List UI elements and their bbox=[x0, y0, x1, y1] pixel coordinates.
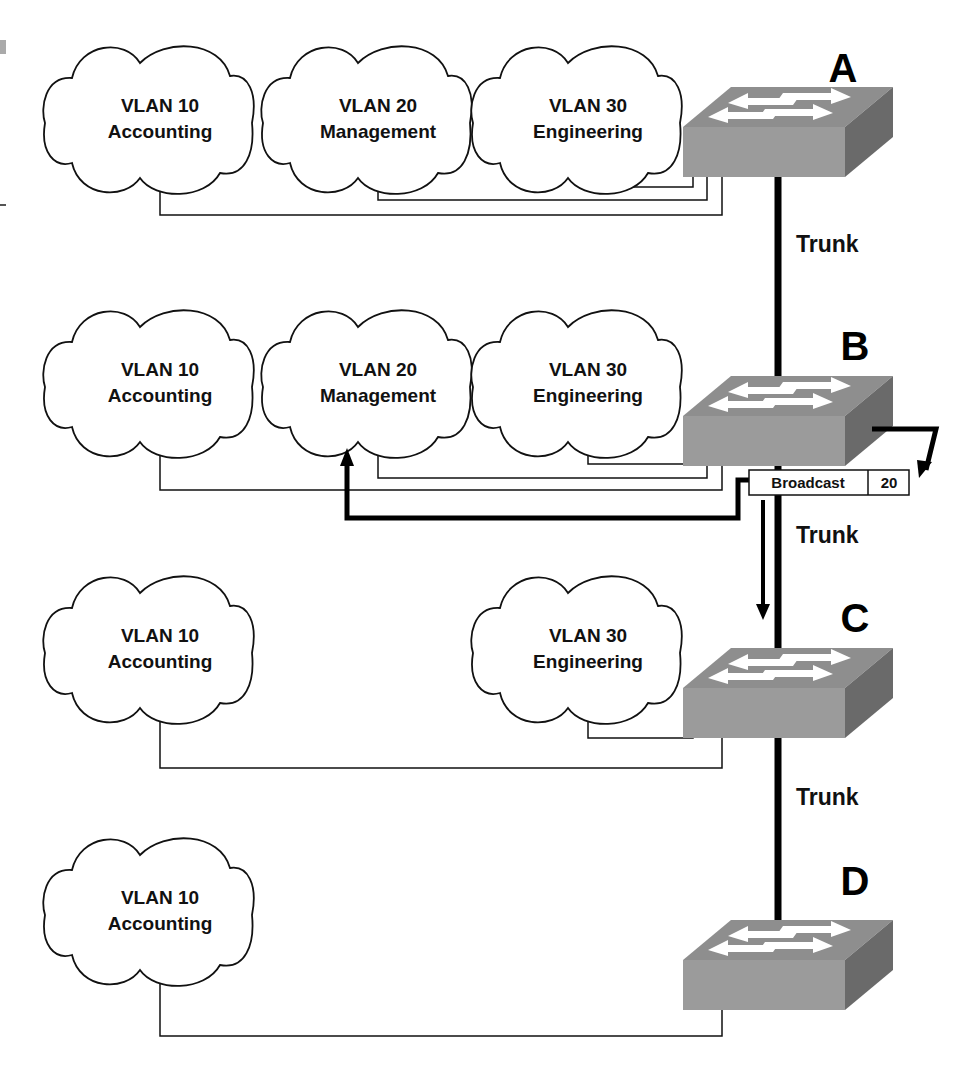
svg-text:VLAN 20: VLAN 20 bbox=[339, 95, 417, 116]
switch-c-label: C bbox=[841, 596, 870, 640]
edge-artifact bbox=[0, 40, 6, 54]
svg-text:VLAN 30: VLAN 30 bbox=[549, 625, 627, 646]
vlan-trunk-diagram: VLAN 10 Accounting VLAN 20 Management VL… bbox=[0, 0, 967, 1074]
svg-text:VLAN 30: VLAN 30 bbox=[549, 359, 627, 380]
switch-b-label: B bbox=[841, 324, 870, 368]
svg-text:Management: Management bbox=[320, 121, 437, 142]
svg-text:Engineering: Engineering bbox=[533, 121, 643, 142]
frame-type: Broadcast bbox=[771, 474, 844, 491]
frame-vlan-tag: 20 bbox=[881, 474, 898, 491]
switch-d-label: D bbox=[841, 859, 870, 903]
svg-text:VLAN 30: VLAN 30 bbox=[549, 95, 627, 116]
svg-text:VLAN 10: VLAN 10 bbox=[121, 95, 199, 116]
trunk-label-cd: Trunk bbox=[796, 784, 859, 810]
svg-text:Engineering: Engineering bbox=[533, 385, 643, 406]
svg-text:Accounting: Accounting bbox=[108, 385, 213, 406]
svg-text:VLAN 10: VLAN 10 bbox=[121, 887, 199, 908]
switch-b[interactable] bbox=[683, 376, 893, 466]
svg-text:Management: Management bbox=[320, 385, 437, 406]
switch-c[interactable] bbox=[683, 648, 893, 738]
cloud-vlan20-b: VLAN 20 Management bbox=[261, 310, 471, 458]
trunk-label-bc: Trunk bbox=[796, 522, 859, 548]
cloud-vlan20-a: VLAN 20 Management bbox=[261, 46, 471, 194]
svg-text:Engineering: Engineering bbox=[533, 651, 643, 672]
broadcast-frame: Broadcast 20 bbox=[749, 470, 909, 495]
cloud-vlan10-b: VLAN 10 Accounting bbox=[43, 310, 253, 458]
cloud-vlan10-c: VLAN 10 Accounting bbox=[43, 576, 253, 724]
svg-text:Accounting: Accounting bbox=[108, 913, 213, 934]
cloud-vlan10-a: VLAN 10 Accounting bbox=[43, 46, 253, 194]
cloud-vlan30-b: VLAN 30 Engineering bbox=[471, 310, 681, 458]
svg-text:VLAN 20: VLAN 20 bbox=[339, 359, 417, 380]
trunk-label-ab: Trunk bbox=[796, 231, 859, 257]
row-b: VLAN 10 Accounting VLAN 20 Management VL… bbox=[43, 310, 936, 620]
svg-text:Accounting: Accounting bbox=[108, 121, 213, 142]
arrow-down-icon bbox=[917, 460, 932, 478]
arrow-down-icon bbox=[756, 604, 770, 620]
svg-text:VLAN 10: VLAN 10 bbox=[121, 625, 199, 646]
svg-text:Accounting: Accounting bbox=[108, 651, 213, 672]
switch-a-label: A bbox=[829, 46, 858, 90]
switch-a[interactable] bbox=[683, 87, 893, 177]
switch-d[interactable] bbox=[683, 920, 893, 1010]
row-d: VLAN 10 Accounting D bbox=[43, 838, 893, 1036]
cloud-vlan30-a: VLAN 30 Engineering bbox=[471, 46, 681, 194]
cloud-vlan10-d: VLAN 10 Accounting bbox=[43, 838, 253, 986]
svg-text:VLAN 10: VLAN 10 bbox=[121, 359, 199, 380]
row-a: VLAN 10 Accounting VLAN 20 Management VL… bbox=[43, 46, 893, 215]
cloud-vlan30-c: VLAN 30 Engineering bbox=[471, 576, 681, 724]
